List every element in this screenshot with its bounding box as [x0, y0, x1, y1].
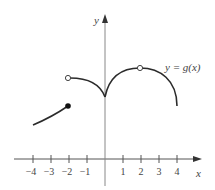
curve-right-piece	[105, 68, 177, 106]
graph-svg: x y −4 −3 −2 −1 1 2 3 4	[0, 0, 215, 190]
x-axis-arrow-icon	[193, 156, 202, 162]
x-axis-label: x	[195, 167, 201, 179]
tick-label: −4	[26, 166, 37, 177]
x-tick-labels: −4 −3 −2 −1 1 2 3 4	[26, 166, 180, 177]
tick-label: −2	[62, 166, 73, 177]
tick-label: 2	[139, 166, 144, 177]
closed-dot-marker	[65, 103, 71, 109]
tick-label: −3	[44, 166, 55, 177]
curve-middle-piece	[70, 78, 105, 97]
tick-label: −1	[80, 166, 91, 177]
curve-label: y = g(x)	[164, 61, 201, 74]
y-axis-label: y	[93, 14, 99, 26]
tick-label: 4	[175, 166, 180, 177]
function-graph: x y −4 −3 −2 −1 1 2 3 4	[0, 0, 215, 190]
open-circle-marker	[137, 65, 142, 70]
open-circle-marker	[65, 75, 70, 80]
curve-left-piece	[33, 106, 68, 125]
tick-label: 1	[121, 166, 126, 177]
tick-label: 3	[157, 166, 162, 177]
y-axis-arrow-icon	[102, 14, 108, 23]
